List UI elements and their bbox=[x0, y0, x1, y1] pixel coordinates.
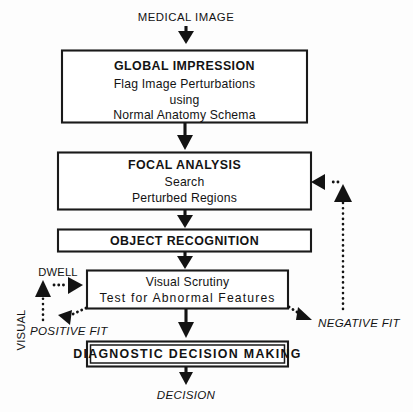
arrow-diagnostic-decision-to-decision bbox=[179, 367, 193, 385]
flowchart-svg: MEDICAL IMAGE GLOBAL IMPRESSION Flag Ima… bbox=[0, 0, 413, 412]
box-focal-analysis-line-1: Search bbox=[165, 175, 205, 189]
edge-positive-fit bbox=[58, 308, 86, 325]
box-global-impression-line-3: Normal Anatomy Schema bbox=[113, 108, 255, 122]
box-focal-analysis-line-2: Perturbed Regions bbox=[132, 191, 237, 205]
arrow-visual-scrutiny-to-diagnostic-decision bbox=[178, 309, 194, 338]
edge-label-negative-fit: NEGATIVE FIT bbox=[318, 316, 401, 329]
box-diagnostic-decision-making-heading: DIAGNOSTIC DECISION MAKING bbox=[73, 347, 302, 361]
arrow-global-impression-to-focal-analysis bbox=[177, 123, 193, 150]
arrow-input-to-global-impression bbox=[178, 26, 194, 44]
flowchart-canvas: MEDICAL IMAGE GLOBAL IMPRESSION Flag Ima… bbox=[0, 0, 413, 412]
box-object-recognition[interactable]: OBJECT RECOGNITION bbox=[58, 230, 311, 252]
box-global-impression-line-1: Flag Image Perturbations bbox=[114, 77, 256, 91]
edge-dwell bbox=[35, 277, 83, 320]
edge-label-positive-fit: POSITIVE FIT bbox=[30, 324, 108, 337]
box-visual-scrutiny-line-1: Visual Scrutiny bbox=[146, 275, 230, 289]
box-visual-scrutiny-line-2: Test for Abnormal Features bbox=[99, 291, 275, 305]
output-label: DECISION bbox=[157, 388, 216, 401]
box-global-impression[interactable]: GLOBAL IMPRESSION Flag Image Perturbatio… bbox=[62, 51, 307, 123]
box-focal-analysis[interactable]: FOCAL ANALYSIS Search Perturbed Regions bbox=[58, 153, 311, 210]
arrow-object-recognition-to-visual-scrutiny bbox=[177, 252, 193, 269]
box-diagnostic-decision-making[interactable]: DIAGNOSTIC DECISION MAKING bbox=[73, 342, 302, 367]
input-label: MEDICAL IMAGE bbox=[138, 11, 235, 23]
box-focal-analysis-heading: FOCAL ANALYSIS bbox=[128, 158, 241, 172]
edge-label-visual: VISUAL bbox=[15, 310, 27, 351]
box-visual-scrutiny[interactable]: Visual Scrutiny Test for Abnormal Featur… bbox=[87, 271, 288, 309]
box-global-impression-line-2: using bbox=[169, 93, 199, 107]
arrow-focal-analysis-to-object-recognition bbox=[177, 210, 193, 228]
box-object-recognition-heading: OBJECT RECOGNITION bbox=[110, 234, 259, 248]
box-global-impression-heading: GLOBAL IMPRESSION bbox=[114, 59, 255, 73]
edge-label-dwell: DWELL bbox=[38, 266, 78, 278]
